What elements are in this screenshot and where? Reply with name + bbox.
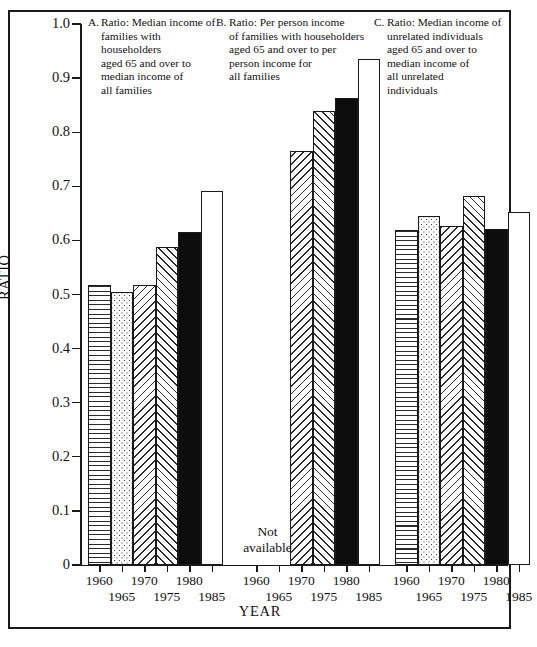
bar-panel-b-1985 <box>358 59 381 565</box>
x-axis-tick <box>429 565 430 572</box>
x-axis-title: YEAR <box>0 603 520 620</box>
x-axis-tick-label: 1975 <box>454 590 494 604</box>
x-axis-tick <box>324 565 325 572</box>
x-axis-tick-label: 1970 <box>124 574 164 588</box>
x-axis-tick <box>189 565 190 572</box>
x-axis-tick-label: 1960 <box>236 574 276 588</box>
x-axis-tick-label: 1980 <box>476 574 516 588</box>
not-available-note: Notavailable <box>239 524 296 555</box>
x-axis-tick-label: 1960 <box>386 574 426 588</box>
x-axis-tick <box>301 565 302 572</box>
x-axis-tick <box>122 565 123 572</box>
x-axis-tick <box>369 565 370 572</box>
x-axis-tick-label: 1960 <box>79 574 119 588</box>
bar-panel-a-1965 <box>111 292 134 565</box>
x-axis-tick <box>256 565 257 572</box>
x-axis-tick-label: 1970 <box>431 574 471 588</box>
x-axis-tick-label: 1985 <box>349 590 389 604</box>
x-axis-tick-label: 1980 <box>326 574 366 588</box>
not-available-line-2: available <box>239 540 296 556</box>
x-axis-tick-label: 1965 <box>409 590 449 604</box>
x-axis-tick-label: 1980 <box>169 574 209 588</box>
x-axis-tick <box>406 565 407 572</box>
x-axis-tick <box>279 565 280 572</box>
x-axis-tick-label: 1970 <box>281 574 321 588</box>
bar-panel-c-1970 <box>440 226 463 565</box>
bar-panel-b-1970 <box>290 151 313 565</box>
x-axis-tick <box>474 565 475 572</box>
x-axis-tick-label: 1965 <box>259 590 299 604</box>
bar-panel-b-1980 <box>335 98 358 565</box>
x-axis-tick <box>212 565 213 572</box>
bar-panel-a-1985 <box>201 191 224 565</box>
x-axis-tick-label: 1985 <box>192 590 232 604</box>
bar-panel-b-1975 <box>313 111 336 565</box>
bar-panel-a-1975 <box>156 247 179 565</box>
x-axis-tick-label: 1975 <box>147 590 187 604</box>
x-axis-tick <box>144 565 145 572</box>
bar-panel-c-1985 <box>508 212 531 565</box>
not-available-line-1: Not <box>239 524 296 540</box>
bar-panel-c-1965 <box>418 216 441 565</box>
bar-panel-c-1960 <box>395 230 418 565</box>
x-axis-tick-label: 1975 <box>304 590 344 604</box>
bar-panel-c-1980 <box>485 229 508 566</box>
x-axis-tick <box>346 565 347 572</box>
x-axis-tick <box>519 565 520 572</box>
bar-panel-a-1980 <box>178 232 201 565</box>
x-axis-tick <box>99 565 100 572</box>
bar-panel-a-1960 <box>88 285 111 565</box>
x-axis-tick-label: 1965 <box>102 590 142 604</box>
x-axis-tick <box>451 565 452 572</box>
bar-panel-a-1970 <box>133 285 156 565</box>
bar-panel-c-1975 <box>463 196 486 566</box>
x-axis-tick <box>496 565 497 572</box>
x-axis-tick <box>167 565 168 572</box>
x-axis-tick-label: 1985 <box>499 590 537 604</box>
